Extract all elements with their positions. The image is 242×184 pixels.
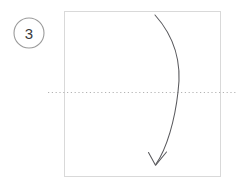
step-diagram-svg: 3 xyxy=(0,0,242,184)
step-number-label: 3 xyxy=(25,25,33,42)
paper-sheet-panel xyxy=(65,12,221,177)
diagram-canvas: 3 xyxy=(0,0,242,184)
